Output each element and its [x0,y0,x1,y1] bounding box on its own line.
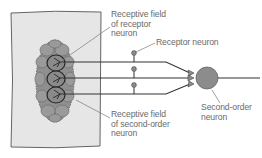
receptor-neuron-3 [132,83,137,94]
synaptic-terminals [188,70,194,87]
receptive-field-diagram: Receptive field of receptor neuron Recep… [0,0,262,158]
receptor-neuron-2 [132,67,137,78]
receptor-neuron-1 [132,51,137,62]
label-receptor-neuron: Receptor neuron [156,38,219,48]
label-second-order-neuron: Second-order neuron [201,103,252,122]
label-receptive-field-of-second-order-neuron: Receptive field of second-order neuron [111,110,170,139]
label-receptive-field-of-receptor-neuron: Receptive field of receptor neuron [111,10,166,39]
second-order-neuron [196,67,260,89]
receptor-neurons [132,51,137,94]
